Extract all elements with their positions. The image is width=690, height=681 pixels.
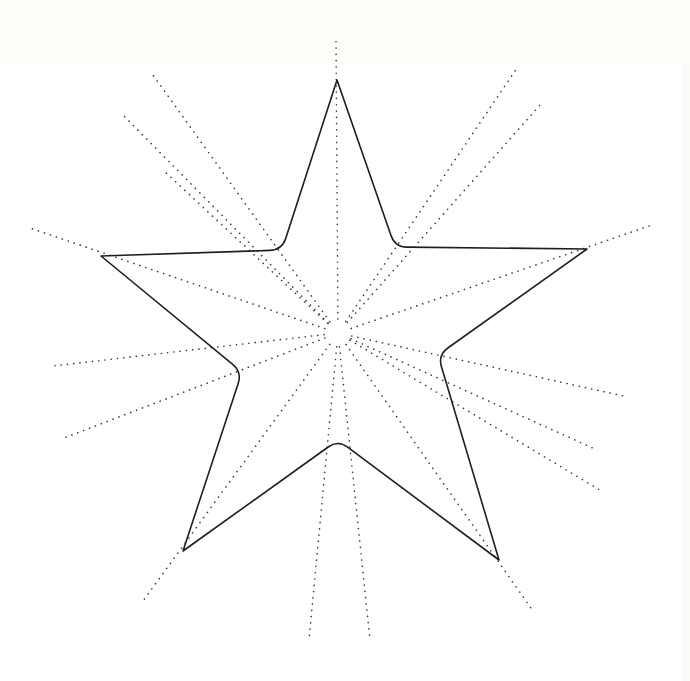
ray-upper-right-1 [346,68,517,321]
ray-left-top [30,228,325,329]
star-outline [101,80,587,560]
ray-upper-left-2 [123,115,328,323]
ray-bottom-left [309,347,337,640]
ray-left-mid [53,335,324,366]
ray-upper-left-3 [163,170,328,324]
ray-upper-right-2 [347,105,540,323]
dotted-rays [30,40,652,640]
ray-right-low-2 [350,340,603,492]
ray-bottom-right [340,347,371,640]
ray-lower-left [143,344,330,601]
ray-lower-right [346,345,533,612]
ray-right-top [351,225,652,328]
star-diagram [0,0,690,681]
ray-left-low [64,338,325,438]
ray-upper-left-1 [153,75,330,322]
ray-right-low-1 [351,339,597,450]
